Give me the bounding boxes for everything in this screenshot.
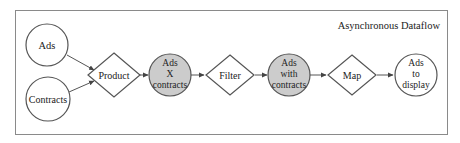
node-contracts-label: Contracts [29, 94, 67, 105]
node-product-label: Product [98, 70, 129, 81]
node-ads: Ads [26, 24, 68, 66]
node-ads-label: Ads [39, 40, 56, 51]
node-ads-with-contracts-line1: Ads [281, 58, 297, 68]
node-ads-to-display: Ads to display [395, 54, 437, 96]
node-ads-x-contracts-line2: X [167, 69, 174, 79]
node-ads-with-contracts-line2: with [281, 69, 298, 79]
node-ads-with-contracts: Ads with contracts [268, 54, 310, 96]
diagram-title: Asynchronous Dataflow [338, 20, 441, 31]
node-ads-x-contracts-line3: contracts [153, 80, 188, 90]
node-filter-label: Filter [219, 70, 241, 81]
node-ads-x-contracts-line1: Ads [162, 58, 178, 68]
node-ads-to-display-line3: display [402, 80, 430, 90]
node-contracts: Contracts [26, 77, 70, 121]
node-map-label: Map [343, 70, 361, 81]
node-ads-x-contracts: Ads X contracts [149, 54, 191, 96]
node-ads-to-display-line1: Ads [408, 58, 424, 68]
dataflow-diagram: Asynchronous Dataflow Ads Contracts Prod… [0, 0, 460, 143]
node-ads-to-display-line2: to [412, 69, 420, 79]
node-ads-with-contracts-line3: contracts [272, 80, 307, 90]
